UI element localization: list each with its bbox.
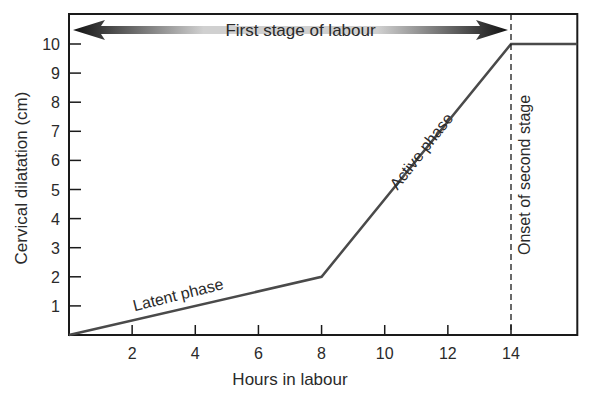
y-axis-label: Cervical dilatation (cm) <box>12 92 31 265</box>
y-tick-label: 6 <box>51 152 60 169</box>
x-axis-label: Hours in labour <box>232 370 348 389</box>
labour-progress-chart: 246810121412345678910 First stage of lab… <box>0 0 590 400</box>
axis-ticks <box>69 44 511 335</box>
x-tick-label: 2 <box>128 345 137 362</box>
x-tick-label: 6 <box>254 345 263 362</box>
annotations: First stage of labourLatent phaseActive … <box>73 14 533 335</box>
y-tick-label: 3 <box>51 240 60 257</box>
y-tick-label: 10 <box>42 36 60 53</box>
x-tick-label: 4 <box>191 345 200 362</box>
y-tick-label: 2 <box>51 269 60 286</box>
tick-labels: 246810121412345678910 <box>42 36 520 362</box>
phase-label: Active phase <box>387 110 457 193</box>
y-tick-label: 9 <box>51 65 60 82</box>
y-tick-label: 8 <box>51 94 60 111</box>
phase-label: Latent phase <box>131 275 225 314</box>
x-tick-label: 8 <box>317 345 326 362</box>
chart-svg: 246810121412345678910 First stage of lab… <box>0 0 590 400</box>
x-tick-label: 14 <box>502 345 520 362</box>
dilatation-line <box>69 44 577 335</box>
y-tick-label: 5 <box>51 182 60 199</box>
phase-label: Onset of second stage <box>516 95 533 255</box>
data-series <box>69 44 577 335</box>
first-stage-label: First stage of labour <box>225 21 376 40</box>
plot-border <box>69 14 577 335</box>
y-tick-label: 1 <box>51 298 60 315</box>
y-tick-label: 7 <box>51 123 60 140</box>
x-tick-label: 12 <box>439 345 457 362</box>
x-tick-label: 10 <box>376 345 394 362</box>
y-tick-label: 4 <box>51 211 60 228</box>
plot-frame <box>69 14 577 335</box>
